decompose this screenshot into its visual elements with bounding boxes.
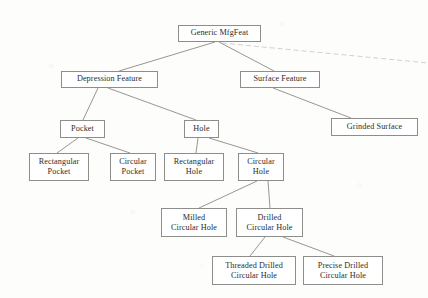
node-rect-pocket: Rectangular Pocket	[29, 153, 89, 181]
node-precise-drilled: Precise Drilled Circular Hole	[303, 256, 383, 285]
edge-layer	[0, 0, 428, 298]
node-pocket: Pocket	[60, 120, 105, 138]
diagram-canvas: Generic MfgFeatDepression FeatureSurface…	[0, 0, 428, 298]
edge-generic-to-depression	[119, 42, 215, 71]
edge-depression-to-hole	[108, 88, 196, 120]
edge-hole-to-rect-hole	[196, 138, 198, 153]
edge-circ-hole-to-milled-circ-hole	[199, 181, 257, 208]
edge-hole-to-circ-hole	[209, 138, 258, 153]
node-grinded: Grinded Surface	[331, 118, 418, 136]
node-surface: Surface Feature	[240, 71, 320, 88]
node-rect-hole: Rectangular Hole	[164, 153, 224, 181]
node-hole: Hole	[184, 120, 219, 138]
edge-circ-hole-to-drilled-circ-hole	[268, 181, 270, 208]
node-milled-circ-hole: Milled Circular Hole	[161, 208, 227, 237]
node-depression: Depression Feature	[61, 71, 158, 88]
edge-drilled-circ-hole-to-threaded-drilled	[250, 237, 265, 256]
edge-generic-to-surface	[219, 42, 274, 71]
node-circ-pocket: Circular Pocket	[110, 153, 156, 181]
edge-pocket-to-rect-pocket	[57, 138, 78, 153]
edge-depression-to-pocket	[83, 88, 98, 120]
node-threaded-drilled: Threaded Drilled Circular Hole	[212, 256, 296, 285]
edge-drilled-circ-hole-to-precise-drilled	[283, 237, 334, 256]
node-generic: Generic MfgFeat	[178, 25, 261, 42]
edge-pocket-to-circ-pocket	[86, 138, 130, 153]
node-drilled-circ-hole: Drilled Circular Hole	[236, 208, 303, 237]
node-circ-hole: Circular Hole	[238, 153, 284, 181]
edge-surface-to-grinded	[273, 88, 351, 118]
